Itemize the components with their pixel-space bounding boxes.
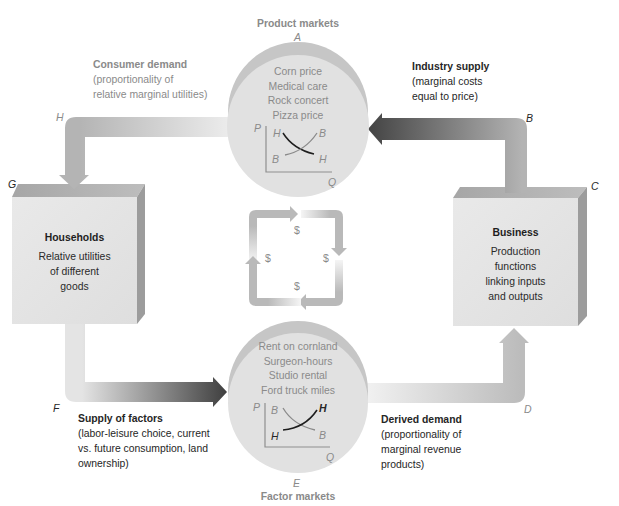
factor-chart-y-axis-label: P — [253, 400, 260, 414]
factor-item: Rent on cornland — [233, 340, 363, 355]
supply-of-factors-line: (labor-leisure choice, current — [78, 426, 210, 441]
households-title: Households — [12, 230, 137, 245]
money-flow-loop — [245, 206, 347, 310]
factor-chart-x-axis-label: Q — [326, 450, 334, 464]
households-line: of different — [12, 264, 137, 279]
households-line: Relative utilities — [12, 249, 137, 264]
supply-of-factors-caption: Supply of factors (labor-leisure choice,… — [78, 411, 210, 471]
business-title: Business — [453, 225, 578, 240]
households-line: goods — [12, 279, 137, 294]
product-chart-y-axis-label: P — [254, 121, 261, 135]
loop-arrow-bottom-left — [245, 256, 301, 306]
factor-item: Ford truck miles — [233, 384, 363, 399]
factor-chart-label-bottom-right: B — [319, 428, 326, 442]
product-item: Pizza price — [233, 109, 363, 124]
business-line: Production — [453, 244, 578, 259]
derived-demand-line: products) — [381, 457, 462, 472]
business-line: and outputs — [453, 289, 578, 304]
factor-market-items: Rent on cornland Surgeon-hours Studio re… — [233, 340, 363, 398]
product-item: Corn price — [233, 65, 363, 80]
factor-item: Surgeon-hours — [233, 355, 363, 370]
consumer-demand-line: relative marginal utilities) — [93, 87, 207, 102]
circular-flow-diagram: Product markets A Corn price Medical car… — [0, 0, 619, 506]
derived-demand-caption: Derived demand (proportionality of margi… — [381, 412, 462, 472]
dollar-icon-bottom: $ — [294, 280, 300, 292]
product-market-items: Corn price Medical care Rock concert Piz… — [233, 65, 363, 123]
households-text: Households Relative utilities of differe… — [12, 230, 137, 294]
consumer-demand-title: Consumer demand — [93, 57, 207, 72]
factor-markets-title: Factor markets — [238, 489, 358, 504]
point-label-d: D — [524, 402, 532, 416]
product-chart-label-top-right: B — [319, 126, 326, 140]
dollar-icon-left: $ — [265, 252, 271, 264]
product-chart-label-bottom-left: B — [272, 152, 279, 166]
loop-arrow-top-left — [249, 206, 298, 262]
product-item: Medical care — [233, 80, 363, 95]
loop-arrow-top-right — [301, 210, 347, 256]
derived-demand-title: Derived demand — [381, 412, 462, 427]
factor-chart-label-top-left: B — [271, 403, 278, 417]
product-item: Rock concert — [233, 94, 363, 109]
product-chart-x-axis-label: Q — [328, 175, 336, 189]
point-label-h: H — [56, 110, 64, 124]
dollar-icon-right: $ — [323, 252, 329, 264]
loop-arrow-bottom-right — [298, 260, 343, 310]
supply-of-factors-arrow — [65, 324, 227, 407]
industry-supply-title: Industry supply — [412, 59, 489, 74]
consumer-demand-caption: Consumer demand (proportionality of rela… — [93, 57, 207, 102]
point-label-c: C — [591, 179, 599, 193]
business-text: Business Production functions linking in… — [453, 225, 578, 304]
supply-of-factors-line: vs. future consumption, land — [78, 441, 210, 456]
dollar-icon-top: $ — [294, 224, 300, 236]
factor-chart-label-bottom-left: H — [271, 429, 279, 443]
product-chart-label-bottom-right: H — [319, 152, 327, 166]
consumer-demand-arrow — [59, 117, 245, 189]
industry-supply-caption: Industry supply (marginal costs equal to… — [412, 59, 489, 104]
product-markets-title: Product markets — [238, 16, 358, 31]
derived-demand-line: marginal revenue — [381, 442, 462, 457]
point-label-g: G — [8, 177, 16, 191]
supply-of-factors-line: ownership) — [78, 456, 210, 471]
supply-of-factors-title: Supply of factors — [78, 411, 210, 426]
derived-demand-arrow — [355, 328, 529, 403]
business-line: functions — [453, 259, 578, 274]
factor-item: Studio rental — [233, 369, 363, 384]
industry-supply-line: (marginal costs — [412, 74, 489, 89]
derived-demand-line: (proportionality of — [381, 427, 462, 442]
industry-supply-arrow — [368, 113, 527, 193]
factor-chart-label-top-right: H — [319, 401, 327, 415]
point-label-e: E — [293, 476, 300, 490]
point-label-a: A — [294, 30, 301, 44]
business-line: linking inputs — [453, 274, 578, 289]
point-label-f: F — [53, 401, 59, 415]
consumer-demand-line: (proportionality of — [93, 72, 207, 87]
product-chart-label-top-left: H — [273, 126, 281, 140]
point-label-b: B — [526, 111, 533, 125]
industry-supply-line: equal to price) — [412, 89, 489, 104]
